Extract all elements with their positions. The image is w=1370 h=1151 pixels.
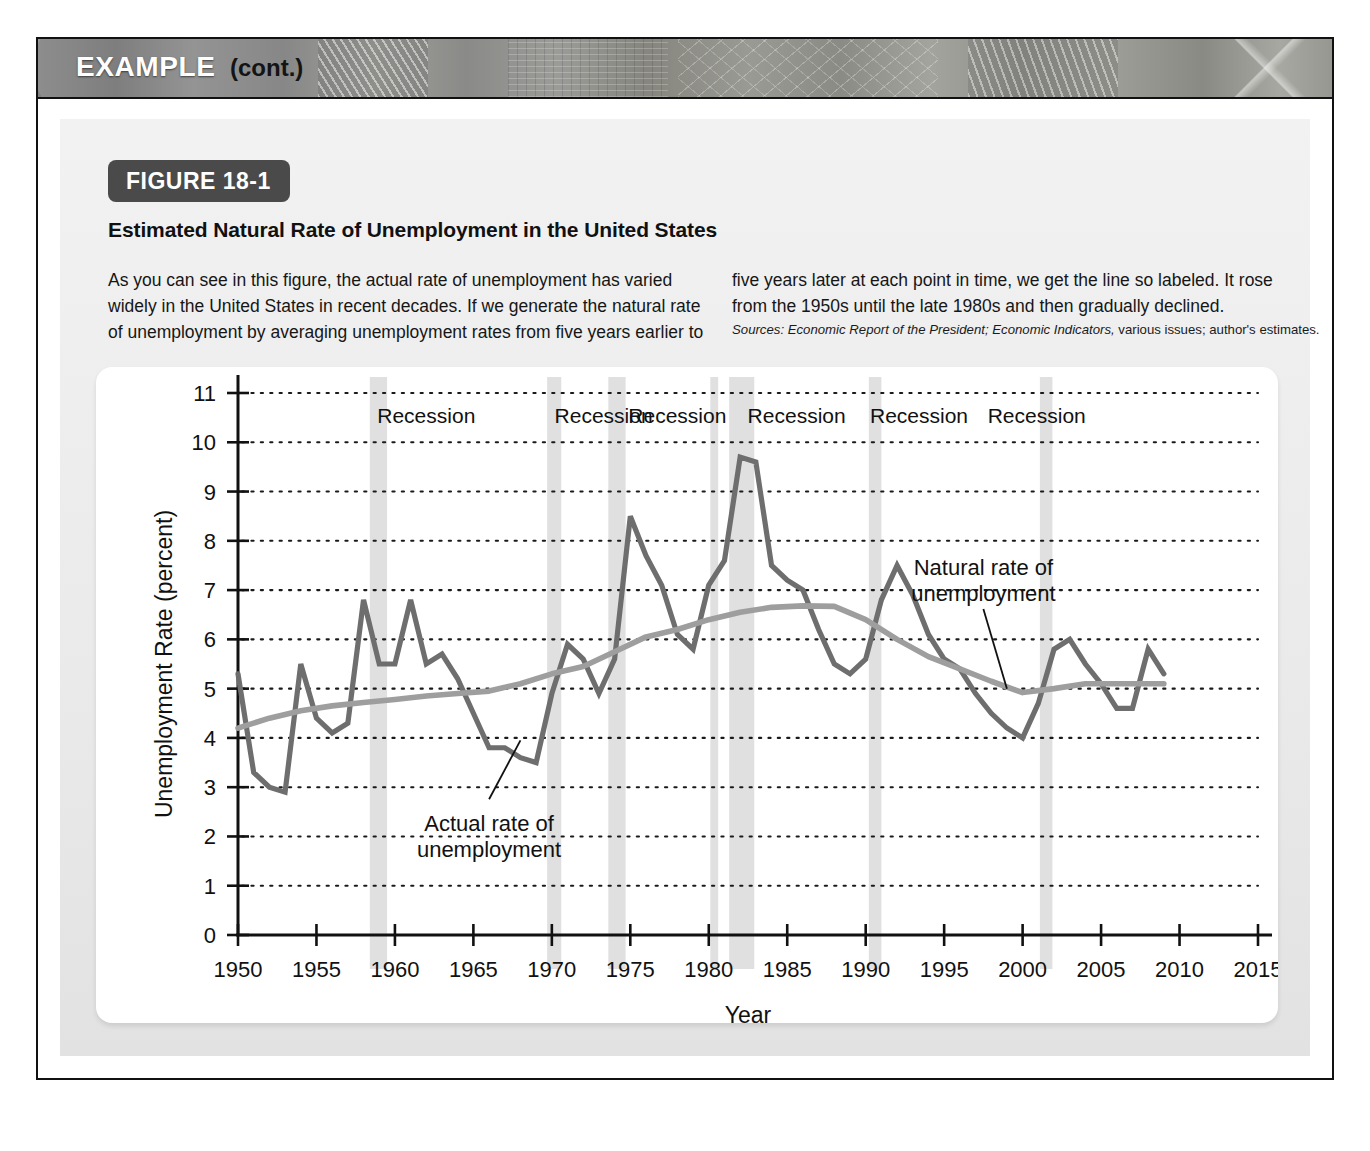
x-tick-label: 1980 [684, 957, 733, 982]
sources-prefix: Sources: [732, 322, 784, 337]
recession-band [869, 377, 882, 969]
y-tick-label: 9 [204, 480, 216, 505]
x-tick-label: 1950 [214, 957, 263, 982]
x-tick-label: 1955 [292, 957, 341, 982]
example-title: EXAMPLE [76, 51, 216, 83]
example-cont-label: (cont.) [230, 54, 303, 82]
natural-rate-annotation-line2: unemployment [911, 581, 1055, 606]
banner-texture-chevron-icon [1208, 39, 1332, 97]
y-tick-label: 0 [204, 923, 216, 948]
sources-italic-2: Economic Indicators, [992, 322, 1114, 337]
banner-texture-diagonal-icon [318, 39, 428, 97]
natural-rate-annotation-line1: Natural rate of [914, 555, 1054, 580]
example-box: EXAMPLE (cont.) FIGURE 18-1 Estimated Na… [36, 37, 1334, 1080]
y-tick-label: 2 [204, 824, 216, 849]
banner-texture-crosshatch-icon [678, 39, 938, 97]
y-tick-label: 1 [204, 874, 216, 899]
recession-band [710, 377, 718, 969]
chart-card: 0123456789101119501955196019651970197519… [96, 367, 1278, 1023]
x-tick-label: 1970 [527, 957, 576, 982]
example-banner: EXAMPLE (cont.) [38, 39, 1332, 99]
x-tick-label: 2000 [998, 957, 1047, 982]
x-axis-title: Year [725, 1002, 772, 1023]
recession-label: Recession [628, 404, 726, 427]
figure-caption-left: As you can see in this figure, the actua… [108, 267, 716, 345]
x-tick-label: 2005 [1077, 957, 1126, 982]
x-tick-label: 1985 [763, 957, 812, 982]
y-axis-title: Unemployment Rate (percent) [151, 510, 177, 818]
recession-label: Recession [748, 404, 846, 427]
figure-caption-right: five years later at each point in time, … [732, 267, 1292, 319]
x-tick-label: 2010 [1155, 957, 1204, 982]
recession-band [370, 377, 387, 969]
figure-number-tag: FIGURE 18-1 [108, 160, 290, 202]
figure-heading: Estimated Natural Rate of Unemployment i… [108, 218, 717, 242]
sources-rest: various issues; author's estimates. [1118, 322, 1319, 337]
banner-texture-stripes-icon [968, 39, 1118, 97]
y-tick-label: 10 [192, 430, 216, 455]
y-tick-label: 3 [204, 775, 216, 800]
recession-band [729, 377, 754, 969]
y-tick-label: 7 [204, 578, 216, 603]
x-tick-label: 2015 [1234, 957, 1278, 982]
figure-sources: Sources: Economic Report of the Presiden… [732, 321, 1332, 339]
y-tick-label: 5 [204, 677, 216, 702]
x-tick-label: 1965 [449, 957, 498, 982]
y-tick-label: 8 [204, 529, 216, 554]
x-tick-label: 1975 [606, 957, 655, 982]
y-tick-label: 6 [204, 627, 216, 652]
figure-panel: FIGURE 18-1 Estimated Natural Rate of Un… [60, 119, 1310, 1056]
x-tick-label: 1995 [920, 957, 969, 982]
actual-rate-annotation-line2: unemployment [417, 837, 561, 862]
recession-label: Recession [377, 404, 475, 427]
sources-italic-1: Economic Report of the President; [788, 322, 989, 337]
recession-label: Recession [870, 404, 968, 427]
axis-labels-group: YearUnemployment Rate (percent) [151, 510, 772, 1023]
x-tick-label: 1960 [370, 957, 419, 982]
recession-label: Recession [988, 404, 1086, 427]
banner-texture-grid-icon [508, 39, 668, 97]
unemployment-line-chart: 0123456789101119501955196019651970197519… [96, 367, 1278, 1023]
recession-bands-group [370, 377, 1053, 969]
y-tick-label: 11 [193, 381, 216, 406]
y-tick-label: 4 [204, 726, 216, 751]
x-tick-label: 1990 [841, 957, 890, 982]
actual-rate-annotation-line1: Actual rate of [424, 811, 555, 836]
